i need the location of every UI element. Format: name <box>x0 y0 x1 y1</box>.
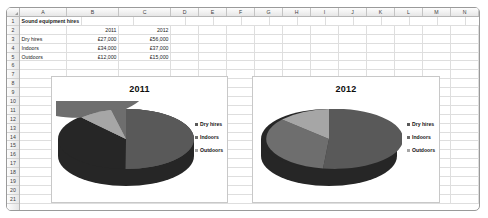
row-header-9[interactable]: 9 <box>7 88 19 97</box>
cell-N6[interactable] <box>451 61 479 70</box>
cell-H1[interactable] <box>298 17 326 26</box>
row-header-8[interactable]: 8 <box>7 79 19 88</box>
cell-N2[interactable] <box>451 26 479 35</box>
cell-N10[interactable] <box>451 97 479 106</box>
cell-F4[interactable] <box>227 44 255 53</box>
cell-B3[interactable]: £27,000 <box>67 35 119 44</box>
column-header-l[interactable]: L <box>395 8 423 16</box>
cell-N18[interactable] <box>451 168 479 177</box>
row-header-3[interactable]: 3 <box>7 35 19 44</box>
cell-N17[interactable] <box>451 159 479 168</box>
cell-N15[interactable] <box>451 141 479 150</box>
legend-item[interactable]: Dry hires <box>407 121 435 127</box>
cell-C4[interactable]: £37,000 <box>119 44 171 53</box>
cell-G4[interactable] <box>255 44 283 53</box>
cell-J4[interactable] <box>339 44 367 53</box>
cell-F20[interactable] <box>227 186 255 195</box>
cell-J6[interactable] <box>339 61 367 70</box>
cell-N7[interactable] <box>451 70 479 79</box>
cell-G5[interactable] <box>255 53 283 62</box>
cell-D6[interactable] <box>171 61 199 70</box>
cell-F21[interactable] <box>227 195 255 204</box>
column-header-d[interactable]: D <box>171 8 199 16</box>
cell-F1[interactable] <box>242 17 270 26</box>
cell-J5[interactable] <box>339 53 367 62</box>
legend-item[interactable]: Outdoors <box>407 147 435 153</box>
cell-F6[interactable] <box>227 61 255 70</box>
cell-K4[interactable] <box>367 44 395 53</box>
cell-L3[interactable] <box>395 35 423 44</box>
cell-E2[interactable] <box>199 26 227 35</box>
row-header-17[interactable]: 17 <box>7 159 19 168</box>
legend-item[interactable]: Dry hires <box>195 121 223 127</box>
cell-M4[interactable] <box>423 44 451 53</box>
cell-I5[interactable] <box>311 53 339 62</box>
cell-F2[interactable] <box>227 26 255 35</box>
cell-E1[interactable] <box>214 17 242 26</box>
cell-C3[interactable]: £56,000 <box>119 35 171 44</box>
cell-G3[interactable] <box>255 35 283 44</box>
column-header-n[interactable]: N <box>451 8 479 16</box>
cell-E3[interactable] <box>199 35 227 44</box>
row-header-10[interactable]: 10 <box>7 97 19 106</box>
column-header-e[interactable]: E <box>199 8 227 16</box>
cell-F11[interactable] <box>227 106 255 115</box>
cell-H6[interactable] <box>283 61 311 70</box>
legend-item[interactable]: Indoors <box>195 134 223 140</box>
cell-N16[interactable] <box>451 150 479 159</box>
cell-M2[interactable] <box>423 26 451 35</box>
cell-N1[interactable] <box>466 17 479 26</box>
cell-N8[interactable] <box>451 79 479 88</box>
row-header-11[interactable]: 11 <box>7 106 19 115</box>
cell-A3[interactable]: Dry hires <box>20 35 67 44</box>
cell-F16[interactable] <box>227 150 255 159</box>
row-header-12[interactable]: 12 <box>7 115 19 124</box>
row-header-2[interactable]: 2 <box>7 26 19 35</box>
cell-F5[interactable] <box>227 53 255 62</box>
row-header-20[interactable]: 20 <box>7 186 19 195</box>
cell-I2[interactable] <box>311 26 339 35</box>
cell-K3[interactable] <box>367 35 395 44</box>
cell-F13[interactable] <box>227 124 255 133</box>
cell-M1[interactable] <box>438 17 466 26</box>
cell-M3[interactable] <box>423 35 451 44</box>
cell-H3[interactable] <box>283 35 311 44</box>
cell-E5[interactable] <box>199 53 227 62</box>
cell-K1[interactable] <box>382 17 410 26</box>
row-header-21[interactable]: 21 <box>7 195 19 204</box>
cell-I3[interactable] <box>311 35 339 44</box>
cell-B5[interactable]: £12,000 <box>67 53 119 62</box>
cell-J2[interactable] <box>339 26 367 35</box>
row-header-6[interactable]: 6 <box>7 61 19 70</box>
cell-F12[interactable] <box>227 115 255 124</box>
row-header-7[interactable]: 7 <box>7 70 19 79</box>
cell-F10[interactable] <box>227 97 255 106</box>
row-header-13[interactable]: 13 <box>7 124 19 133</box>
column-header-m[interactable]: M <box>423 8 451 16</box>
column-header-h[interactable]: H <box>283 8 311 16</box>
cell-D3[interactable] <box>171 35 199 44</box>
column-header-j[interactable]: J <box>339 8 367 16</box>
cell-F7[interactable] <box>227 70 255 79</box>
cell-N12[interactable] <box>451 115 479 124</box>
cell-G6[interactable] <box>255 61 283 70</box>
cell-N14[interactable] <box>451 133 479 142</box>
cell-N3[interactable] <box>451 35 479 44</box>
cell-L4[interactable] <box>395 44 423 53</box>
cell-H2[interactable] <box>283 26 311 35</box>
cell-L5[interactable] <box>395 53 423 62</box>
pie-chart-2012[interactable]: 2012 Dry hires Indoors <box>252 76 440 203</box>
cell-G1[interactable] <box>270 17 298 26</box>
cell-A5[interactable]: Outdoors <box>20 53 67 62</box>
row-header-1[interactable]: 1 <box>7 17 19 26</box>
cell-A6[interactable] <box>20 61 67 70</box>
cell-C5[interactable]: £15,000 <box>119 53 171 62</box>
cell-B1[interactable] <box>82 17 134 26</box>
cell-A1[interactable]: Sound equipment hires <box>20 17 82 26</box>
cell-B2[interactable]: 2011 <box>67 26 119 35</box>
cell-N19[interactable] <box>451 177 479 186</box>
cell-K6[interactable] <box>367 61 395 70</box>
row-header-5[interactable]: 5 <box>7 53 19 62</box>
cell-C6[interactable] <box>119 61 171 70</box>
cell-E6[interactable] <box>199 61 227 70</box>
